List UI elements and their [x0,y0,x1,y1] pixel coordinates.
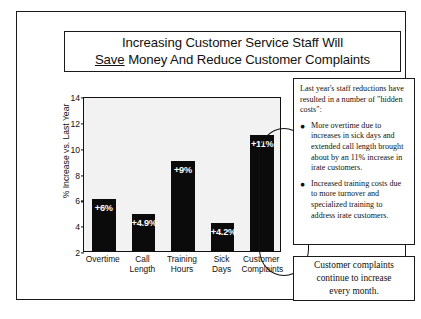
x-axis-label-line: Length [123,265,163,275]
bullet-dot-icon: ● [300,179,311,221]
x-axis-label-line: Overtime [83,255,123,265]
bar-value-label: +6% [92,203,116,213]
x-axis-label-call-length: CallLength [123,255,163,275]
y-axis-tick-mark [81,201,84,202]
x-axis-label-line: Hours [162,265,202,275]
bar-sick-days: +4.2% [211,223,235,251]
title-line-1: Increasing Customer Service Staff Will [122,35,343,52]
y-axis-tick-label: 12 [70,119,80,129]
notes-intro: Last year's staff reductions have result… [300,84,408,116]
x-axis-label-line: Complaints [241,265,281,275]
slide-canvas: Increasing Customer Service Staff Will S… [0,0,421,319]
bar-value-label: +9% [171,165,195,175]
title-line-2-rest: Money And Reduce Customer Complaints [125,52,371,67]
bullet-dot-icon: ● [300,121,311,174]
conclusion-box: Customer complaints continue to increase… [293,256,415,301]
y-axis-tick-mark [81,227,84,228]
y-axis-tick-mark [81,97,84,98]
x-axis-label-training-hours: TrainingHours [162,255,202,275]
y-axis-tick-label: 6 [75,196,80,206]
title-line-2: Save Money And Reduce Customer Complaint… [95,52,370,69]
y-axis-tick-mark [81,123,84,124]
y-axis-tick-label: 8 [75,171,80,181]
hidden-costs-notes-box: Last year's staff reductions have result… [293,78,415,245]
bar-overtime: +6% [92,199,116,251]
conclusion-line-1: Customer complaints [314,259,394,272]
note-bullet-1: ● More overtime due to increases in sick… [300,121,408,174]
x-axis-label-sick-days: SickDays [202,255,242,275]
title-box: Increasing Customer Service Staff Will S… [64,31,401,72]
conclusion-line-3: every month. [329,285,378,298]
conclusion-line-2: continue to increase [317,272,392,285]
note-bullet-2-text: Increased training costs due to more tur… [311,179,408,221]
bar-call-length: +4.9% [132,214,156,251]
plot-area: 2468101214+6%+4.9%+9%+4.2%+11% [83,97,281,252]
slide-outer-frame: Increasing Customer Service Staff Will S… [16,11,406,300]
bar-chart: % Increase vs. Last Year 2468101214+6%+4… [43,84,287,269]
y-axis-tick-label: 10 [70,145,80,155]
y-axis-tick-label: 2 [75,248,80,258]
bar-value-label: +11% [250,139,274,149]
y-axis-tick-mark [81,252,84,253]
y-axis-tick-mark [81,149,84,150]
x-axis-label-customer-complaints: CustomerComplaints [241,255,281,275]
bar-training-hours: +9% [171,161,195,251]
note-bullet-1-text: More overtime due to increases in sick d… [311,121,408,174]
bar-customer-complaints: +11% [250,135,274,251]
y-axis-tick-label: 14 [70,93,80,103]
bar-value-label: +4.9% [132,218,156,228]
x-axis-label-overtime: Overtime [83,255,123,265]
note-bullet-2: ● Increased training costs due to more t… [300,179,408,221]
y-axis-tick-label: 4 [75,222,80,232]
bar-value-label: +4.2% [211,227,235,237]
x-axis-label-line: Days [202,265,242,275]
y-axis-tick-mark [81,175,84,176]
title-emphasis-save: Save [95,52,125,67]
